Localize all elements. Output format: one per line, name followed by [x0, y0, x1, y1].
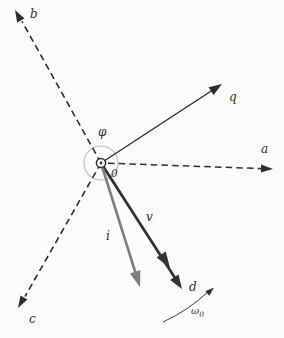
phi-angle-label: φ — [98, 125, 107, 139]
origin-marker — [96, 158, 105, 167]
omega-subscript: 0 — [199, 310, 204, 319]
axis-b-arrowhead-icon — [15, 10, 25, 23]
axis-d-and-vector-v: v d — [101, 163, 197, 294]
omega-arrowhead-icon — [205, 288, 214, 296]
origin-label: 0 — [111, 167, 118, 179]
vector-i-arrowhead-icon — [130, 270, 141, 287]
axis-a-arrowhead-icon — [261, 165, 273, 173]
figure-canvas: a b c q v d — [0, 0, 284, 338]
axis-d-arrowhead-icon — [170, 275, 182, 290]
omega-label: ω0 — [191, 305, 204, 319]
vector-i-label: i — [106, 229, 110, 243]
axis-c: c — [18, 163, 101, 326]
axis-b-label: b — [30, 7, 38, 21]
omega-symbol: ω — [191, 305, 199, 316]
axis-a-line — [108, 163, 262, 168]
origin-dot-icon — [100, 162, 103, 165]
axis-d-label: d — [189, 280, 197, 294]
vector-i: i — [101, 163, 140, 287]
axis-q: q — [101, 84, 237, 163]
axis-c-line — [25, 163, 101, 297]
vector-i-line — [101, 163, 137, 276]
axis-b-line — [22, 21, 101, 163]
axis-a-label: a — [261, 142, 268, 156]
axis-q-arrowhead-icon — [209, 84, 222, 95]
axis-c-label: c — [29, 312, 36, 326]
phasor-diagram: a b c q v d — [0, 0, 284, 338]
axis-q-label: q — [229, 90, 237, 104]
axis-c-arrowhead-icon — [18, 296, 27, 308]
axis-q-line — [101, 91, 212, 164]
vector-v-label: v — [146, 210, 153, 224]
axis-b: b — [15, 7, 101, 163]
axis-a: a — [108, 142, 273, 173]
